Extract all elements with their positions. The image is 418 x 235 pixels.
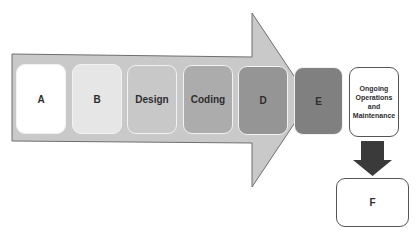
stage-b-label: B (93, 94, 100, 105)
ongoing-line-3: and (368, 102, 380, 111)
stage-coding: Coding (183, 65, 233, 134)
stage-coding-label: Coding (191, 94, 225, 105)
stage-a-label: A (37, 94, 44, 105)
ongoing-operations-box: Ongoing Operations and Maintenance (349, 67, 399, 137)
process-diagram: A B Design Coding D E Ongoing Operations… (0, 0, 418, 235)
stage-design: Design (127, 65, 177, 134)
stage-d-label: D (259, 95, 266, 106)
stage-b: B (72, 64, 122, 134)
final-stage-f-label: F (369, 197, 375, 208)
stage-e: E (294, 67, 343, 135)
ongoing-line-4: Maintenance (353, 111, 395, 120)
final-stage-f: F (336, 178, 409, 227)
ongoing-line-1: Ongoing (360, 84, 389, 93)
ongoing-line-2: Operations (356, 93, 393, 102)
stage-a: A (16, 64, 66, 134)
stage-e-label: E (315, 96, 322, 107)
stage-d: D (238, 66, 288, 135)
stage-design-label: Design (135, 94, 168, 105)
down-arrow-icon (353, 141, 392, 176)
